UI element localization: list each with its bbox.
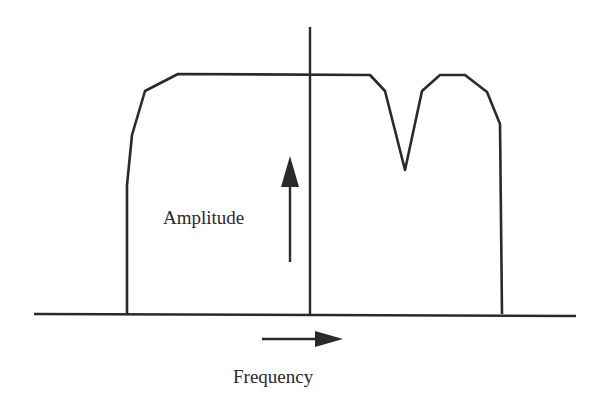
spectrum-curve xyxy=(127,74,502,314)
frequency-label: Frequency xyxy=(233,366,313,388)
spectrum-diagram: Amplitude Frequency xyxy=(0,0,599,409)
amplitude-label: Amplitude xyxy=(163,207,244,229)
diagram-canvas xyxy=(0,0,599,409)
frequency-axis-line xyxy=(34,314,576,316)
amplitude-arrow-icon xyxy=(281,156,299,187)
frequency-arrow-icon xyxy=(315,331,343,347)
